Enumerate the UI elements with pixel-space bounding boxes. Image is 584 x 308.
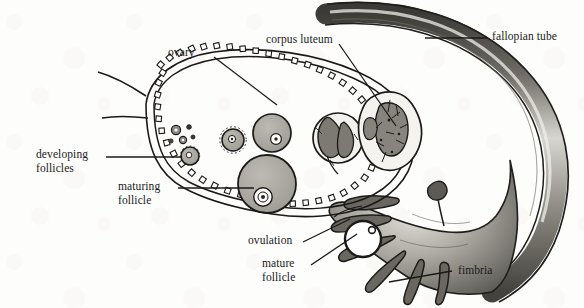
corpus-luteum-shape bbox=[359, 92, 422, 171]
label-corpus-luteum: corpus luteum bbox=[266, 33, 333, 47]
label-ovary: ovary bbox=[168, 46, 195, 60]
ovary-fallopian-tube-diagram: ovary corpus luteum fallopian tube devel… bbox=[0, 0, 584, 308]
label-maturing-follicle-line1: maturing bbox=[118, 180, 160, 192]
label-fimbria: fimbria bbox=[458, 264, 493, 278]
label-fallopian-tube: fallopian tube bbox=[492, 30, 557, 44]
label-mature-follicle: mature follicle bbox=[262, 257, 295, 284]
label-developing-follicles: developing follicles bbox=[36, 148, 88, 175]
label-developing-follicles-line1: developing bbox=[36, 148, 88, 160]
label-mature-follicle-line2: follicle bbox=[262, 271, 295, 285]
developing-follicle-large bbox=[253, 114, 291, 152]
maturing-follicle-shape bbox=[238, 155, 296, 213]
label-maturing-follicle: maturing follicle bbox=[118, 180, 160, 207]
label-maturing-follicle-line2: follicle bbox=[118, 194, 160, 208]
label-ovulation: ovulation bbox=[248, 234, 292, 248]
label-developing-follicles-line2: follicles bbox=[36, 162, 88, 176]
label-mature-follicle-line1: mature bbox=[262, 257, 295, 269]
